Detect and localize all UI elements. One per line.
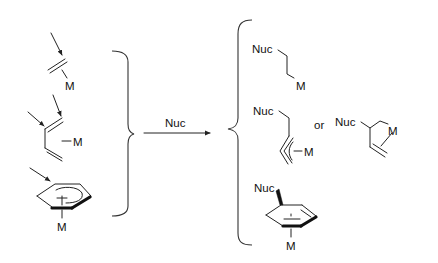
reactant-diene-complex: M xyxy=(28,95,83,161)
product-allyl-linear: Nuc M xyxy=(253,105,314,164)
attack-arrow xyxy=(28,112,44,126)
attack-arrow xyxy=(30,168,50,181)
reagent-label: Nuc xyxy=(165,117,186,129)
product-alkyl: Nuc M xyxy=(252,43,306,92)
metal-label: M xyxy=(388,125,398,137)
ring-circle xyxy=(56,187,82,203)
attack-arrow xyxy=(51,33,62,55)
product-cyclohexadienyl: Nuc M xyxy=(254,182,316,252)
metal-label: M xyxy=(73,136,83,148)
right-brace xyxy=(228,20,252,245)
metal-label: M xyxy=(286,240,296,252)
metal-label: M xyxy=(65,80,75,92)
nuc-label: Nuc xyxy=(253,105,274,117)
metal-label: M xyxy=(304,146,314,158)
reaction-arrow: Nuc xyxy=(144,117,210,133)
metal-label: M xyxy=(57,221,67,233)
left-brace xyxy=(112,51,134,216)
or-connector: or xyxy=(314,119,324,131)
reactant-alkene-complex: M xyxy=(48,33,75,92)
metal-label: M xyxy=(296,80,306,92)
reactant-arene-complex: M xyxy=(30,168,91,233)
product-allyl-branched: Nuc M xyxy=(335,116,398,157)
reaction-scheme: M M M Nuc Nuc M N xyxy=(0,0,438,263)
attack-arrow xyxy=(53,95,61,116)
metal-bond xyxy=(62,70,67,78)
nuc-label: Nuc xyxy=(335,116,356,128)
wedge-bond xyxy=(276,189,283,205)
nuc-label: Nuc xyxy=(252,43,273,55)
nuc-label: Nuc xyxy=(254,182,275,194)
